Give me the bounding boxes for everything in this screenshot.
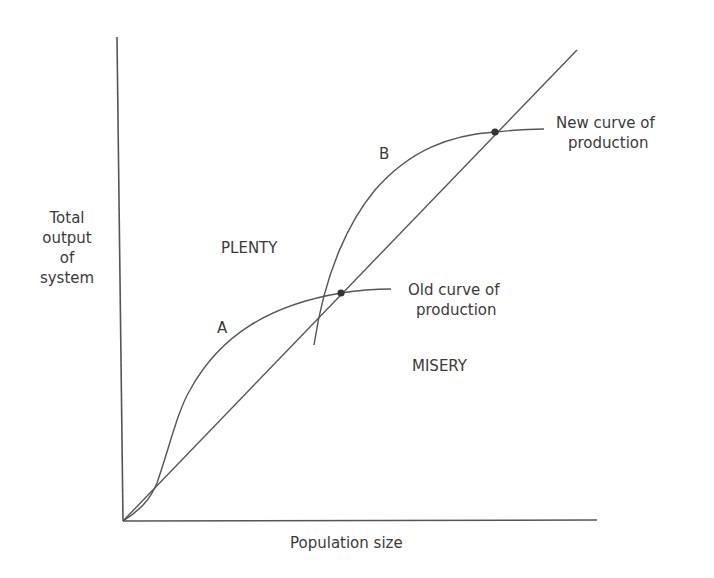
diagram-canvas [0,0,714,578]
y-axis-label-line-1: Total [24,208,110,228]
y-axis [117,37,123,521]
misery-region-label: MISERY [412,356,467,376]
old-curve-label: Old curve of production [408,280,500,320]
new-equilibrium-point [491,128,498,135]
curve-b-label: B [379,144,389,164]
old-equilibrium-point [337,289,344,296]
old-curve-label-line-2: production [408,300,500,320]
y-axis-label-line-4: system [24,268,110,288]
new-curve-label-line-1: New curve of [556,113,655,133]
plenty-region-label: PLENTY [221,238,277,258]
y-axis-label-line-3: of [24,248,110,268]
x-axis-label: Population size [290,533,403,553]
old-curve-label-line-1: Old curve of [408,280,500,300]
curve-a-label: A [217,318,227,338]
new-curve-label: New curve of production [556,113,655,153]
x-axis [123,520,597,521]
y-axis-label-line-2: output [24,228,110,248]
new-curve-label-line-2: production [556,133,655,153]
subsistence-line [123,50,577,521]
y-axis-label: Total output of system [24,208,110,288]
old-production-curve [123,289,391,521]
